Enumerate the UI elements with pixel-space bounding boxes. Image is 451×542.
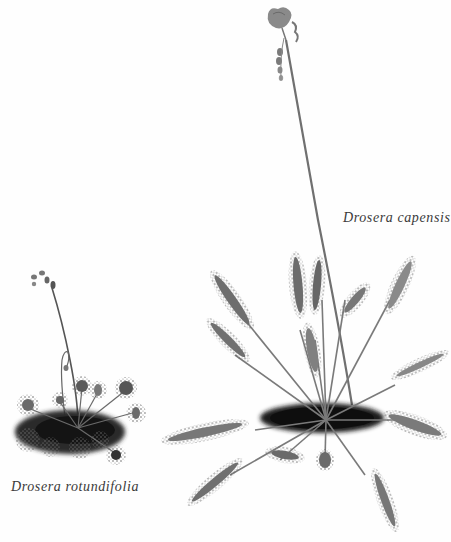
capensis-flower: [268, 7, 298, 81]
drosera-capensis-plant: [159, 7, 451, 534]
caption-drosera-rotundifolia: Drosera rotundifolia: [11, 479, 139, 495]
botanical-plate: Drosera capensis Drosera rotundifolia: [0, 0, 451, 542]
drosera-illustration: [0, 0, 451, 542]
caption-drosera-capensis: Drosera capensis: [343, 210, 450, 226]
drosera-rotundifolia-plant: [15, 271, 146, 466]
rotundifolia-buds: [31, 271, 56, 290]
